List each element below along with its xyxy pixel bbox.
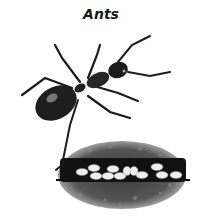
illustration: [0, 0, 202, 224]
ant-nest-icon: [56, 141, 190, 209]
ants-illustration-card: Ants: [0, 0, 202, 224]
